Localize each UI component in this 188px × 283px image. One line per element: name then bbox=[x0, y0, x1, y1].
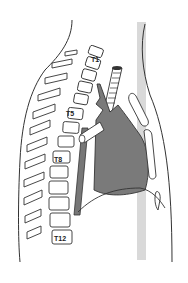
label-t8: T8 bbox=[54, 156, 62, 163]
chest-diagram: T1 T5 T8 T12 bbox=[0, 0, 188, 283]
label-t1: T1 bbox=[91, 56, 99, 63]
label-t12: T12 bbox=[54, 235, 66, 242]
label-t5: T5 bbox=[66, 110, 74, 117]
